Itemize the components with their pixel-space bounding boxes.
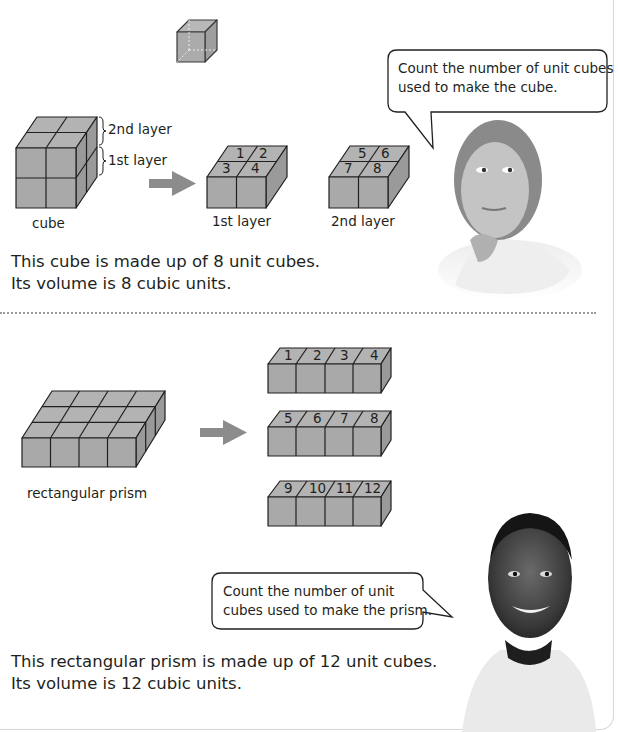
cube-number: 7 — [340, 410, 349, 426]
bubble-line: cubes used to make the prism. — [223, 601, 432, 620]
second-layer-label: 2nd layer — [108, 121, 172, 137]
second-layer-caption: 2nd layer — [331, 213, 395, 229]
cube-number: 6 — [381, 145, 390, 161]
prism-label: rectangular prism — [27, 485, 147, 501]
cube-number: 4 — [251, 160, 260, 176]
cube-2x2x2-figure — [16, 117, 106, 208]
first-layer-caption: 1st layer — [212, 213, 271, 229]
cube-number: 7 — [344, 160, 353, 176]
speech-bubble-text-boy: Count the number of unit cubes used to m… — [223, 582, 432, 620]
rectangular-prism-figure — [22, 391, 165, 467]
cube-number: 3 — [340, 347, 349, 363]
cube-number: 6 — [313, 410, 322, 426]
cube-number: 12 — [364, 480, 381, 496]
cube-number: 11 — [336, 480, 353, 496]
cube-label: cube — [32, 215, 65, 231]
cube-number: 8 — [370, 410, 379, 426]
second-layer-figure — [329, 146, 409, 208]
cube-number: 3 — [222, 160, 231, 176]
cube-number: 1 — [284, 347, 293, 363]
unit-cube-icon — [177, 20, 217, 62]
cube-number: 4 — [370, 347, 379, 363]
boy-photo — [462, 513, 596, 732]
cube-number: 9 — [284, 480, 293, 496]
bubble-line: Count the number of unit — [223, 582, 432, 601]
arrow-right-icon — [149, 171, 196, 196]
paragraph-line: Its volume is 12 cubic units. — [11, 673, 437, 695]
prism-volume-paragraph: This rectangular prism is made up of 12 … — [11, 651, 437, 695]
first-layer-label: 1st layer — [108, 152, 167, 168]
first-layer-figure — [207, 146, 287, 208]
cube-number: 2 — [259, 145, 268, 161]
paragraph-line: This rectangular prism is made up of 12 … — [11, 651, 437, 673]
cube-volume-paragraph: This cube is made up of 8 unit cubes. It… — [11, 251, 320, 295]
cube-number: 5 — [358, 145, 367, 161]
arrow-right-icon — [200, 420, 247, 445]
illustration-canvas — [0, 0, 618, 732]
paragraph-line: This cube is made up of 8 unit cubes. — [11, 251, 320, 273]
bubble-line: used to make the cube. — [398, 78, 613, 97]
cube-number: 1 — [236, 145, 245, 161]
bubble-line: Count the number of unit cubes — [398, 59, 613, 78]
cube-number: 2 — [313, 347, 322, 363]
paragraph-line: Its volume is 8 cubic units. — [11, 273, 320, 295]
dotted-separator — [0, 312, 596, 314]
girl-photo — [438, 120, 582, 300]
cube-number: 10 — [309, 480, 326, 496]
cube-number: 5 — [284, 410, 293, 426]
cube-number: 8 — [373, 160, 382, 176]
speech-bubble-text-girl: Count the number of unit cubes used to m… — [398, 59, 613, 97]
